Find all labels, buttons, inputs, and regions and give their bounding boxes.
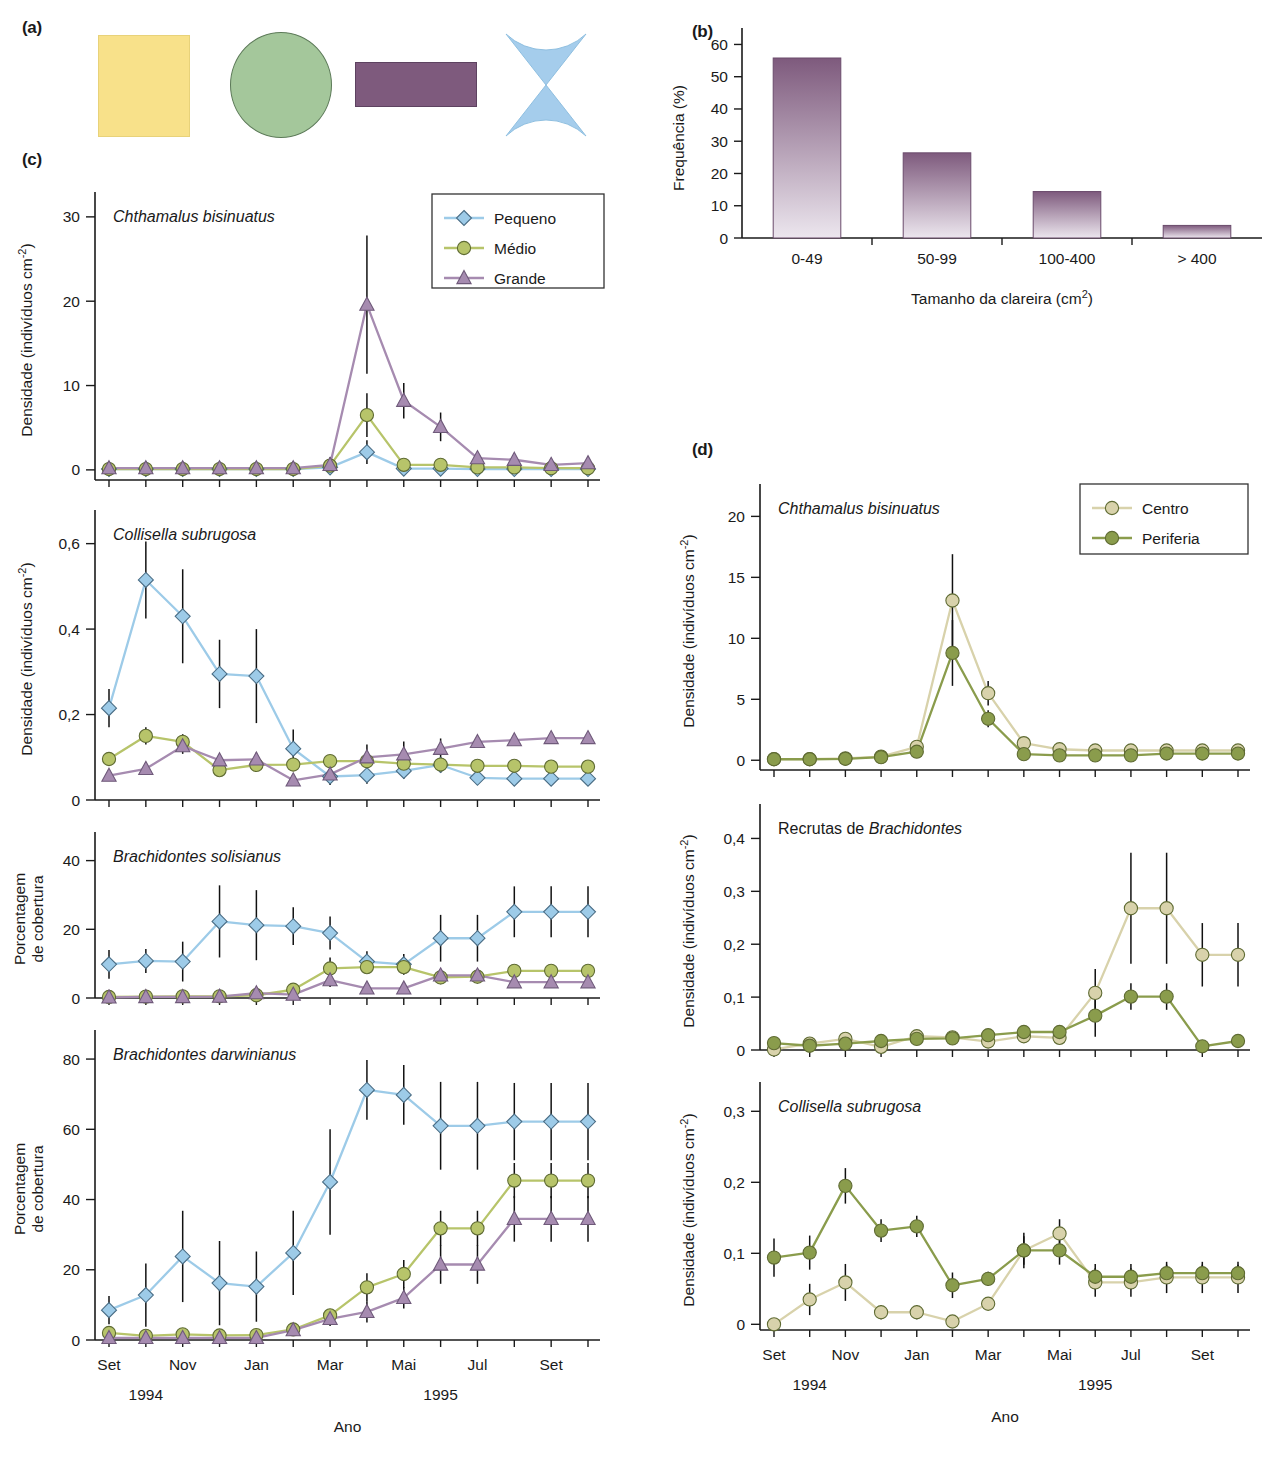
subplot-title: Collisella subrugosa	[778, 1098, 921, 1115]
x-tick-label-month: Mar	[975, 1346, 1002, 1363]
point-periferia	[1160, 1267, 1173, 1280]
y-axis-title: Densidade (indivíduos cm-2)	[16, 562, 35, 755]
panel-c-chart-stack: 0102030Chthamalus bisinuatusDensidade (i…	[0, 150, 640, 1450]
blue-bowtie-shape	[500, 30, 592, 140]
panel-d-chart-stack: 05101520Chthamalus bisinuatusDensidade (…	[650, 430, 1279, 1460]
series-line-grande	[109, 305, 588, 469]
point-médio	[360, 1281, 373, 1294]
panel-b-x-axis-title: Tamanho da clareira (cm2)	[911, 288, 1093, 307]
point-grande	[397, 393, 411, 406]
point-periferia	[1053, 1244, 1066, 1257]
point-periferia	[1124, 1270, 1137, 1283]
y-tick-label: 60	[63, 1121, 81, 1138]
y-tick-label: 0,3	[723, 1103, 745, 1120]
point-periferia	[1124, 749, 1137, 762]
subplot-title: Collisella subrugosa	[113, 526, 256, 543]
point-centro	[1196, 948, 1209, 961]
x-tick-label-month: Set	[540, 1356, 564, 1373]
point-pequeno	[507, 904, 522, 919]
subplot-title: Brachidontes darwinianus	[113, 1046, 296, 1063]
y-tick-label: 10	[63, 377, 81, 394]
panel-b-chart: 0102030405060Frequência (%)0-4950-99100-…	[650, 0, 1279, 320]
green-circle-shape	[230, 32, 332, 138]
point-centro	[1231, 948, 1244, 961]
series-line-grande	[109, 1219, 588, 1338]
point-médio	[581, 1174, 594, 1187]
point-periferia	[1196, 1040, 1209, 1053]
point-periferia	[1231, 747, 1244, 760]
y-tick-label: 0,2	[723, 1174, 745, 1191]
y-axis-title: Porcentagemde cobertura	[11, 873, 46, 965]
y-tick-label: 20	[728, 508, 746, 525]
series-line-centro	[774, 908, 1238, 1049]
panel-b: (b) 0102030405060Frequência (%)0-4950-99…	[650, 0, 1279, 320]
bar-50-99	[903, 153, 971, 238]
point-centro	[982, 687, 995, 700]
point-médio	[360, 408, 373, 421]
point-periferia	[1089, 749, 1102, 762]
y-tick-label: 0,2	[58, 706, 80, 723]
y-tick-label: 0,2	[723, 936, 745, 953]
point-periferia	[839, 1179, 852, 1192]
point-médio	[471, 1222, 484, 1235]
x-tick-label-month: Nov	[169, 1356, 197, 1373]
point-pequeno	[102, 957, 117, 972]
y-tick-label: 0	[736, 1316, 745, 1333]
y-tick-label: 40	[63, 1191, 81, 1208]
panel-c-label: (c)	[22, 150, 42, 170]
x-tick-label-month: Nov	[832, 1346, 860, 1363]
svg-text:60: 60	[711, 36, 729, 53]
point-periferia	[767, 1037, 780, 1050]
y-axis-title: Densidade (indivíduos cm-2)	[678, 1113, 697, 1306]
point-centro	[1124, 902, 1137, 915]
y-tick-label: 0,1	[723, 989, 745, 1006]
point-periferia	[874, 1224, 887, 1237]
y-tick-label: 0,4	[58, 621, 80, 638]
point-pequeno	[359, 768, 374, 783]
svg-text:0: 0	[719, 230, 728, 247]
point-periferia	[982, 1029, 995, 1042]
y-tick-label: 0,1	[723, 1245, 745, 1262]
series-line-periferia	[774, 653, 1238, 759]
x-tick-label-month: Set	[97, 1356, 121, 1373]
point-pequeno	[470, 1118, 485, 1133]
point-grande	[433, 419, 447, 432]
legend-label-pequeno: Pequeno	[494, 210, 556, 227]
y-tick-label: 0	[71, 1332, 80, 1349]
point-médio	[102, 752, 115, 765]
point-pequeno	[544, 904, 559, 919]
point-pequeno	[581, 1114, 596, 1129]
point-periferia	[982, 712, 995, 725]
point-médio	[434, 458, 447, 471]
subplot-title: Chthamalus bisinuatus	[113, 208, 275, 225]
point-centro	[1089, 986, 1102, 999]
panel-d-label: (d)	[692, 440, 713, 460]
point-médio	[397, 1267, 410, 1280]
legend-label-centro: Centro	[1142, 500, 1189, 517]
point-pequeno	[544, 1114, 559, 1129]
subplot-title: Chthamalus bisinuatus	[778, 500, 940, 517]
y-tick-label: 0,3	[723, 883, 745, 900]
y-axis-title: Densidade (indivíduos cm-2)	[678, 834, 697, 1027]
point-periferia	[1089, 1270, 1102, 1283]
svg-text:30: 30	[711, 133, 729, 150]
point-periferia	[803, 1039, 816, 1052]
x-axis-year-1995: 1995	[1078, 1376, 1112, 1393]
legend-marker-periferia	[1105, 531, 1118, 544]
legend-marker-médio	[457, 241, 470, 254]
point-pequeno	[102, 1303, 117, 1318]
x-tick-label-month: Jan	[244, 1356, 269, 1373]
panel-b-x-tick-label: 0-49	[791, 250, 822, 267]
point-pequeno	[138, 953, 153, 968]
point-periferia	[803, 753, 816, 766]
point-pequeno	[507, 1114, 522, 1129]
point-pequeno	[470, 931, 485, 946]
point-periferia	[1231, 1034, 1244, 1047]
point-médio	[139, 729, 152, 742]
point-periferia	[839, 752, 852, 765]
legend-label-periferia: Periferia	[1142, 530, 1200, 547]
x-axis-title-ano: Ano	[991, 1408, 1019, 1425]
x-tick-label-month: Mar	[317, 1356, 344, 1373]
y-tick-label: 5	[736, 691, 745, 708]
x-axis-year-1994: 1994	[792, 1376, 827, 1393]
